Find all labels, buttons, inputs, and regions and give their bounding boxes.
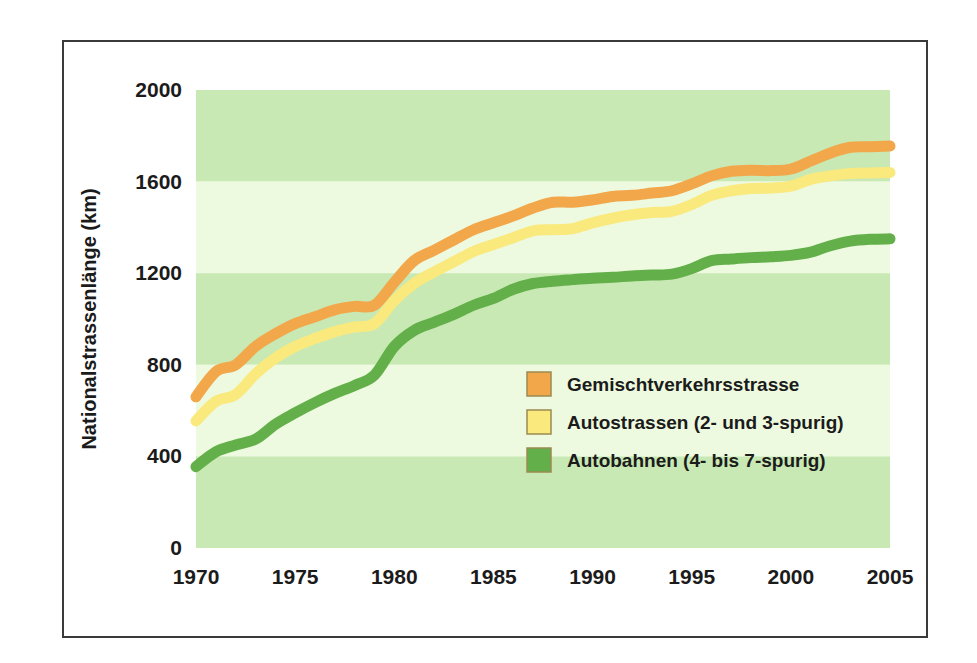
x-tick-2000: 2000	[767, 565, 814, 588]
chart-legend: GemischtverkehrsstrasseAutostrassen (2- …	[527, 372, 844, 472]
y-axis-title-text: Nationalstrassenlänge (km)	[78, 188, 100, 449]
y-tick-1600: 1600	[135, 170, 182, 193]
legend-swatch-1	[527, 410, 551, 434]
chart-figure: 0400800120016002000 19701975198019851990…	[0, 0, 977, 663]
legend-swatch-0	[527, 372, 551, 396]
y-tick-2000: 2000	[135, 78, 182, 101]
x-tick-2005: 2005	[867, 565, 914, 588]
x-tick-1980: 1980	[371, 565, 418, 588]
y-axis-title: Nationalstrassenlänge (km)	[78, 188, 100, 449]
x-tick-1985: 1985	[470, 565, 517, 588]
y-axis-tick-labels: 0400800120016002000	[135, 78, 182, 559]
y-tick-1200: 1200	[135, 261, 182, 284]
legend-label-0: Gemischtverkehrsstrasse	[567, 374, 799, 395]
y-tick-0: 0	[170, 536, 182, 559]
x-tick-1990: 1990	[569, 565, 616, 588]
y-tick-800: 800	[147, 353, 182, 376]
legend-label-2: Autobahnen (4- bis 7-spurig)	[567, 450, 826, 471]
line-chart-svg: 0400800120016002000 19701975198019851990…	[0, 0, 977, 663]
legend-label-1: Autostrassen (2- und 3-spurig)	[567, 412, 844, 433]
x-axis-tick-labels: 19701975198019851990199520002005	[173, 565, 914, 588]
x-tick-1970: 1970	[173, 565, 220, 588]
plot-wrapper: 0400800120016002000 19701975198019851990…	[0, 0, 977, 663]
y-tick-400: 400	[147, 444, 182, 467]
legend-swatch-2	[527, 448, 551, 472]
x-tick-1975: 1975	[272, 565, 319, 588]
x-tick-1995: 1995	[668, 565, 715, 588]
